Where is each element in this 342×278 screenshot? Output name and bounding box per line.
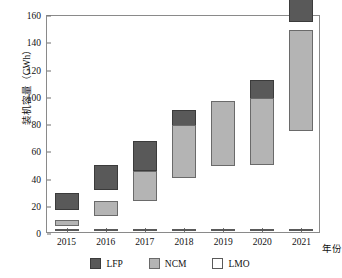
bar-segment-lfp[interactable] [94, 165, 118, 191]
y-axis-tick-mark [47, 43, 51, 44]
y-axis-tick-mark [47, 70, 51, 71]
bar-segment-lfp[interactable] [133, 141, 157, 171]
bar-segment-ncm[interactable] [211, 101, 235, 166]
legend-swatch-icon [212, 258, 223, 269]
y-axis-title: 装机容量（GWh） [19, 15, 33, 155]
y-axis-tick-mark [47, 234, 51, 235]
y-axis-tick-label: 20 [32, 202, 48, 212]
y-axis-tick-mark [47, 97, 51, 98]
y-axis-tick-label: 120 [27, 66, 47, 76]
y-axis-tick-label: 80 [32, 120, 48, 130]
plot-area: 0204060801001201401602015201620172018201… [46, 15, 320, 233]
legend-item-lfp[interactable]: LFP [90, 258, 122, 269]
legend-label: LMO [228, 259, 249, 269]
bar-segment-lmo[interactable] [133, 229, 157, 231]
x-axis-tick-label: 2021 [292, 237, 311, 247]
chart-legend: LFPNCMLMO [0, 258, 340, 269]
y-axis-tick-label: 140 [27, 38, 47, 48]
y-axis-tick-label: 0 [36, 229, 47, 239]
x-axis-tick-label: 2017 [135, 237, 154, 247]
x-axis-tick-label: 2016 [96, 237, 115, 247]
bar-stack[interactable] [94, 190, 118, 232]
bar-segment-lmo[interactable] [250, 229, 274, 231]
legend-item-ncm[interactable]: NCM [149, 258, 187, 269]
bar-stack[interactable] [55, 210, 79, 232]
bar-segment-ncm[interactable] [172, 125, 196, 178]
x-axis-tick-label: 2019 [214, 237, 233, 247]
bar-segment-ncm[interactable] [250, 98, 274, 165]
y-axis-tick-mark [47, 152, 51, 153]
bar-stack[interactable] [172, 144, 196, 232]
bar-segment-lfp[interactable] [55, 193, 79, 209]
y-axis-tick-mark [47, 125, 51, 126]
bar-stack[interactable] [250, 122, 274, 232]
y-axis-tick-label: 100 [27, 93, 47, 103]
bar-segment-lmo[interactable] [55, 229, 79, 231]
y-axis-tick-mark [47, 179, 51, 180]
legend-label: NCM [165, 259, 187, 269]
legend-label: LFP [106, 259, 122, 269]
bar-segment-lfp[interactable] [289, 0, 313, 22]
y-axis-tick-mark [47, 16, 51, 17]
x-axis-tick-label: 2020 [253, 237, 272, 247]
bar-segment-ncm[interactable] [289, 30, 313, 131]
y-axis-tick-label: 40 [32, 175, 48, 185]
y-axis-tick-mark [47, 206, 51, 207]
bar-segment-ncm[interactable] [133, 171, 157, 201]
x-axis-tick-label: 2018 [175, 237, 194, 247]
bar-segment-lmo[interactable] [211, 229, 235, 231]
y-axis-tick-label: 160 [27, 11, 47, 21]
legend-item-lmo[interactable]: LMO [212, 258, 249, 269]
bar-stack[interactable] [289, 22, 313, 233]
bar-segment-lmo[interactable] [94, 229, 118, 231]
x-axis-title: 年份 [322, 241, 342, 255]
bar-stack[interactable] [133, 171, 157, 232]
bar-segment-ncm[interactable] [55, 220, 79, 225]
bar-segment-lmo[interactable] [289, 229, 313, 231]
x-axis-tick-label: 2015 [57, 237, 76, 247]
bar-segment-ncm[interactable] [94, 201, 118, 216]
legend-swatch-icon [149, 258, 160, 269]
bar-segment-lmo[interactable] [172, 229, 196, 231]
bar-stack[interactable] [211, 136, 235, 232]
y-axis-tick-label: 60 [32, 147, 48, 157]
legend-swatch-icon [90, 258, 101, 269]
